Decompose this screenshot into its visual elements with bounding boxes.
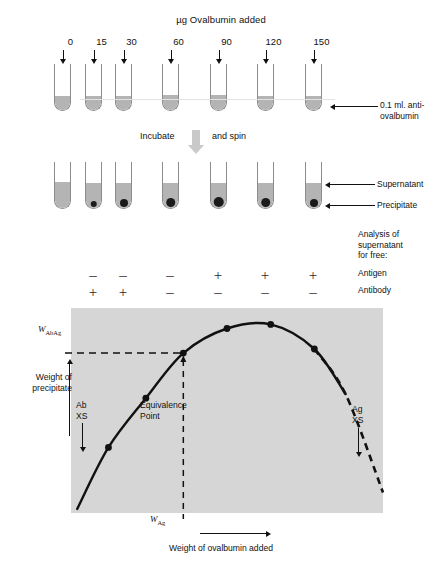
w-ag-label: WAg: [150, 514, 165, 526]
w-abag-label: WAbAg: [38, 324, 61, 336]
precipitin-curve-extrapolated: [314, 349, 383, 493]
y-axis-arrow-icon: [69, 364, 70, 436]
equivalence-point-label: Equivalence Point: [140, 400, 187, 421]
antibody-excess-arrow-icon: [82, 423, 83, 447]
x-axis-label: Weight of ovalbumin added: [0, 543, 442, 553]
w-ag-subscript: Ag: [158, 519, 166, 526]
precipitin-curve: [0, 0, 442, 566]
antigen-excess-arrow-icon: [358, 428, 359, 452]
y-axis-label: Weight of precipitate: [12, 372, 72, 393]
x-axis-arrow-icon: [200, 533, 266, 534]
curve-data-point: [105, 444, 112, 451]
w-abag-subscript: AbAg: [46, 329, 62, 336]
w-ag-symbol: W: [150, 514, 158, 524]
antigen-excess-label: Ag XS: [352, 404, 363, 425]
curve-data-point: [311, 346, 318, 353]
w-abag-symbol: W: [38, 324, 46, 334]
precipitin-curve-solid: [77, 323, 345, 509]
curve-data-point: [267, 321, 274, 328]
curve-data-point: [224, 325, 231, 332]
antibody-excess-label: Ab XS: [76, 400, 87, 421]
